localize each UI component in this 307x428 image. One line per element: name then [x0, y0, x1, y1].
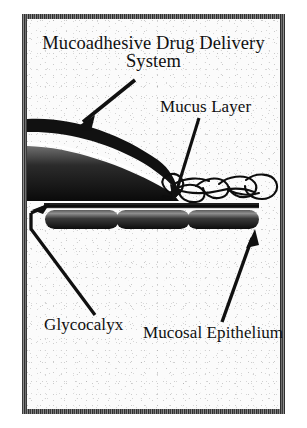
label-title-line1: Mucoadhesive Drug Delivery: [42, 33, 264, 53]
mucosal-epithelium-cells: [45, 210, 259, 229]
glycocalyx-line: [44, 203, 259, 208]
label-mucosal-epithelium: Mucosal Epithelium: [143, 324, 283, 342]
label-drug-delivery-system: Mucoadhesive Drug Delivery System: [0, 34, 307, 71]
label-glycocalyx: Glycocalyx: [44, 316, 123, 334]
arrow-dds: [74, 80, 135, 131]
label-title-line2: System: [0, 52, 307, 71]
arrow-mucosal-epithelium: [222, 229, 259, 322]
figure-root: Mucoadhesive Drug Delivery System Mucus …: [0, 0, 307, 428]
arrow-mucus-layer: [170, 118, 199, 201]
label-mucus-layer: Mucus Layer: [160, 98, 251, 116]
dds-lower-band: [27, 146, 179, 201]
